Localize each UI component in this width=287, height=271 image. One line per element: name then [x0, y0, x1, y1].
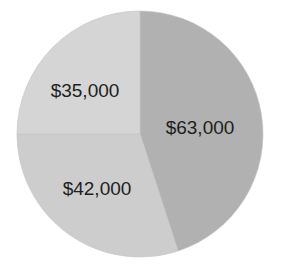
pie-slice-35000 — [17, 11, 140, 134]
slice-label-35000: $35,000 — [51, 80, 120, 101]
slice-label-63000: $63,000 — [166, 117, 235, 138]
slice-label-42000: $42,000 — [63, 178, 132, 199]
pie-chart: $63,000 $42,000 $35,000 — [0, 0, 287, 271]
